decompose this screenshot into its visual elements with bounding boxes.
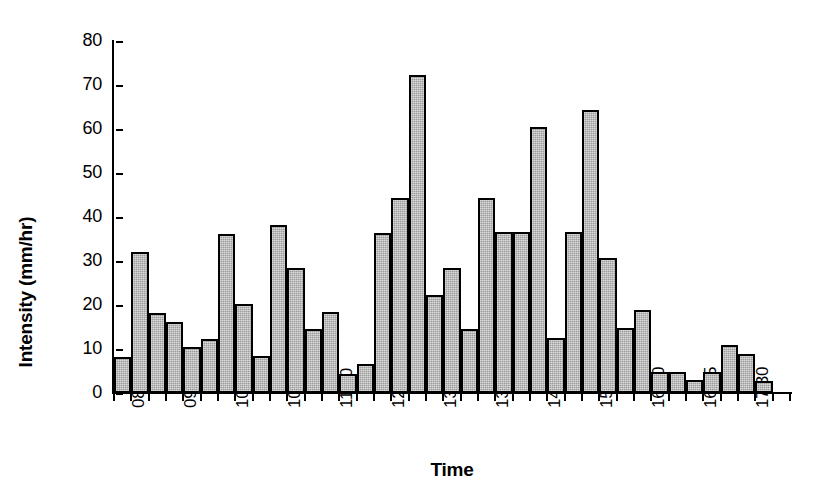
- rainfall-intensity-bar-chart: Intensity (mm/hr) 01020304050607080 08:3…: [0, 0, 829, 494]
- bar: [461, 329, 478, 393]
- bar: [374, 233, 391, 393]
- x-tick-mark: [529, 393, 531, 401]
- bar: [166, 322, 183, 393]
- y-tick-mark: [116, 41, 123, 43]
- bar: [322, 312, 339, 393]
- x-tick-mark: [581, 393, 583, 401]
- bar: [426, 295, 443, 393]
- bar: [755, 381, 772, 393]
- bar: [270, 225, 287, 393]
- bar: [131, 252, 148, 393]
- x-tick-mark: [737, 393, 739, 401]
- bar: [201, 339, 218, 393]
- x-tick-mark: [789, 393, 791, 401]
- y-axis-title: Intensity (mm/hr): [0, 0, 46, 494]
- y-tick-mark: [116, 393, 123, 395]
- x-axis-title: Time: [114, 459, 790, 481]
- bar: [721, 345, 738, 393]
- x-tick-mark: [633, 393, 635, 401]
- y-tick-mark: [116, 217, 123, 219]
- y-tick-label: 10: [83, 338, 102, 359]
- x-tick-mark: [269, 393, 271, 401]
- y-tick-label: 30: [83, 250, 102, 271]
- y-tick-mark: [116, 261, 123, 263]
- bar: [686, 380, 703, 393]
- bar: [599, 258, 616, 393]
- bar: [149, 313, 166, 393]
- y-tick-mark: [116, 349, 123, 351]
- bar: [617, 328, 634, 393]
- bar: [565, 232, 582, 393]
- bar: [634, 310, 651, 393]
- y-tick-mark: [116, 305, 123, 307]
- bar: [305, 329, 322, 393]
- y-tick-mark: [116, 173, 123, 175]
- bar: [738, 354, 755, 393]
- x-tick-mark: [373, 393, 375, 401]
- x-tick-mark: [477, 393, 479, 401]
- x-tick-mark: [217, 393, 219, 401]
- x-tick-mark: [165, 393, 167, 401]
- y-tick-label: 60: [83, 118, 102, 139]
- bar: [218, 234, 235, 393]
- bar: [669, 372, 686, 393]
- y-tick-label: 80: [83, 30, 102, 51]
- bar: [287, 268, 304, 393]
- x-tick-mark: [425, 393, 427, 401]
- y-tick-mark: [116, 85, 123, 87]
- bar: [530, 127, 547, 393]
- plot-area: 01020304050607080 08:3009:1510:0010:4511…: [114, 41, 790, 393]
- x-tick-mark: [321, 393, 323, 401]
- y-tick-mark: [116, 129, 123, 131]
- bar: [582, 110, 599, 393]
- bar: [651, 372, 668, 393]
- y-tick-label: 20: [83, 294, 102, 315]
- bar: [495, 232, 512, 393]
- bar: [357, 364, 374, 393]
- bar: [513, 232, 530, 393]
- bar: [443, 268, 460, 393]
- bar: [547, 338, 564, 393]
- bar: [114, 357, 131, 393]
- y-tick-label: 50: [83, 162, 102, 183]
- bar: [478, 198, 495, 393]
- bar: [391, 198, 408, 393]
- bar: [253, 356, 270, 393]
- y-tick-label: 40: [83, 206, 102, 227]
- bar: [183, 347, 200, 393]
- y-tick-label: 0: [92, 382, 102, 403]
- y-tick-label: 70: [83, 74, 102, 95]
- bar: [235, 304, 252, 393]
- y-axis-title-label: Intensity (mm/hr): [15, 217, 37, 368]
- x-tick-mark: [113, 393, 115, 401]
- x-tick-mark: [685, 393, 687, 401]
- bar: [409, 75, 426, 393]
- bar: [703, 372, 720, 393]
- bar: [339, 374, 356, 393]
